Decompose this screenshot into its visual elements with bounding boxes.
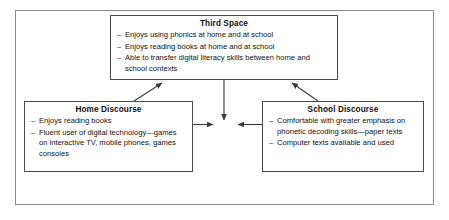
bullet-item: – Able to transfer digital literacy skil… — [117, 53, 332, 75]
bullet-item: – Computer texts available and used — [269, 138, 418, 149]
bullet-text: Able to transfer digital literacy skills… — [125, 53, 332, 75]
bullet-text: Comfortable with greater emphasis on pho… — [277, 116, 418, 138]
node-school-discourse: School Discourse – Comfortable with grea… — [262, 101, 424, 172]
node-title-school-discourse: School Discourse — [263, 102, 423, 115]
node-third-space: Third Space – Enjoys using phonics at ho… — [110, 15, 338, 80]
bullet-item: – Enjoys using phonics at home and at sc… — [117, 30, 332, 41]
node-title-third-space: Third Space — [111, 16, 337, 29]
bullet-text: Enjoys using phonics at home and at scho… — [125, 30, 332, 41]
bullet-dash-icon: – — [269, 116, 277, 127]
bullet-list-school-discourse: – Comfortable with greater emphasis on p… — [263, 115, 423, 149]
bullet-dash-icon: – — [117, 53, 125, 64]
bullet-item: – Comfortable with greater emphasis on p… — [269, 116, 418, 138]
bullet-dash-icon: – — [31, 128, 39, 139]
bullet-list-home-discourse: – Enjoys reading books – Fluent user of … — [25, 115, 192, 160]
bullet-text: Enjoys reading books — [39, 116, 187, 127]
bullet-dash-icon: – — [117, 30, 125, 41]
bullet-item: – Enjoys reading books at home and at sc… — [117, 42, 332, 53]
bullet-text: Fluent user of digital technology—games … — [39, 128, 187, 160]
bullet-text: Computer texts available and used — [277, 138, 418, 149]
bullet-text: Enjoys reading books at home and at scho… — [125, 42, 332, 53]
bullet-item: – Fluent user of digital technology—game… — [31, 128, 187, 160]
node-home-discourse: Home Discourse – Enjoys reading books – … — [24, 101, 193, 172]
bullet-list-third-space: – Enjoys using phonics at home and at sc… — [111, 29, 337, 74]
bullet-dash-icon: – — [31, 116, 39, 127]
diagram-canvas: Third Space – Enjoys using phonics at ho… — [0, 0, 449, 220]
bullet-dash-icon: – — [117, 42, 125, 53]
bullet-item: – Enjoys reading books — [31, 116, 187, 127]
node-title-home-discourse: Home Discourse — [25, 102, 192, 115]
bullet-dash-icon: – — [269, 138, 277, 149]
